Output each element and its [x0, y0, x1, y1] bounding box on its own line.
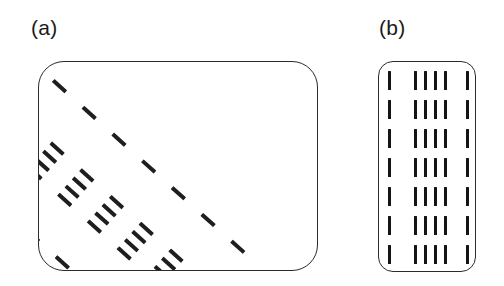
tilted-tick [139, 222, 154, 236]
upright-tick [466, 216, 469, 235]
tilted-row [45, 61, 266, 269]
tilted-tick [38, 229, 40, 243]
upright-tick [414, 216, 417, 235]
tilted-tick [72, 177, 87, 191]
upright-tick [414, 158, 417, 177]
tilted-tick [94, 212, 109, 226]
upright-tick [466, 158, 469, 177]
upright-tick [388, 158, 391, 177]
tilted-tick [38, 158, 50, 172]
upright-tick [444, 71, 447, 90]
panel-b-upright-pattern [378, 61, 476, 272]
tilted-tick [168, 249, 183, 263]
tilted-tick [38, 166, 42, 180]
panel-label-b: (b) [379, 17, 406, 38]
upright-tick [434, 216, 437, 235]
tilted-row [38, 61, 207, 215]
tilted-tick [57, 193, 72, 207]
upright-tick [444, 216, 447, 235]
tilted-row [38, 61, 236, 242]
upright-tick [424, 158, 427, 177]
upright-tick [466, 187, 469, 206]
upright-tick [388, 129, 391, 148]
panel-a-tilted-pattern [38, 61, 318, 271]
tilted-tick [49, 142, 64, 156]
tilted-row [134, 104, 318, 271]
upright-tick [434, 187, 437, 206]
tilted-tick [55, 255, 70, 269]
upright-tick [414, 71, 417, 90]
tilted-tick [141, 160, 156, 174]
tilted-tick [82, 106, 97, 120]
tilted-tick [42, 150, 57, 164]
upright-tick [414, 245, 417, 264]
upright-tick [424, 187, 427, 206]
tilted-row [75, 61, 296, 271]
upright-tick [424, 216, 427, 235]
tilted-tick [102, 203, 117, 217]
upright-tick [434, 71, 437, 90]
upright-tick [444, 158, 447, 177]
upright-tick [434, 245, 437, 264]
tilted-tick [117, 247, 132, 261]
tilted-tick [87, 220, 102, 234]
upright-tick [434, 100, 437, 119]
upright-tick [414, 129, 417, 148]
tilted-tick [171, 186, 186, 200]
upright-tick [434, 158, 437, 177]
upright-tick [444, 100, 447, 119]
upright-tick [444, 187, 447, 206]
tilted-tick [64, 185, 79, 199]
upright-tick [424, 100, 427, 119]
upright-tick [434, 129, 437, 148]
upright-tick-pattern-layer [379, 62, 476, 272]
upright-tick [388, 187, 391, 206]
tilted-tick [109, 195, 124, 209]
upright-tick [414, 100, 417, 119]
upright-tick [466, 71, 469, 90]
upright-tick [444, 129, 447, 148]
tilted-tick [79, 169, 94, 183]
tilted-tick [111, 133, 126, 147]
tilted-tick [154, 265, 169, 271]
upright-tick [424, 71, 427, 90]
tilted-row [105, 77, 318, 271]
upright-tick [388, 216, 391, 235]
figure-canvas: (a) (b) [0, 0, 504, 286]
upright-tick [444, 245, 447, 264]
upright-tick [466, 129, 469, 148]
upright-tick [388, 71, 391, 90]
tilted-row [38, 61, 177, 188]
panel-label-a: (a) [31, 17, 58, 38]
upright-tick [388, 100, 391, 119]
tilted-tick-pattern-layer [38, 61, 318, 271]
upright-tick [414, 187, 417, 206]
tilted-tick [200, 213, 215, 227]
upright-tick [388, 245, 391, 264]
upright-tick [466, 245, 469, 264]
tilted-tick [230, 240, 245, 254]
upright-tick [424, 245, 427, 264]
upright-tick [424, 129, 427, 148]
tilted-tick [161, 257, 176, 271]
tilted-tick [52, 79, 67, 93]
upright-tick [466, 100, 469, 119]
tilted-tick [124, 238, 139, 252]
tilted-tick [131, 230, 146, 244]
